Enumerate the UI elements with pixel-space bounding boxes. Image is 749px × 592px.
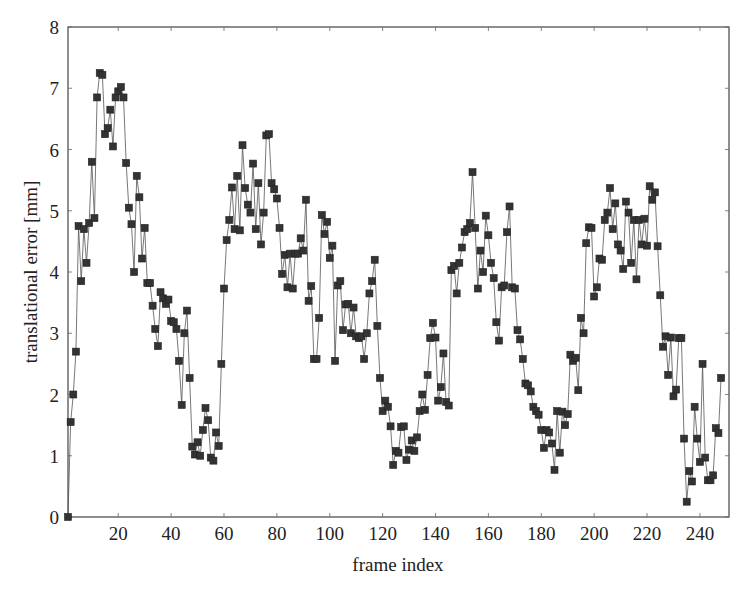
data-point-marker <box>220 285 227 292</box>
data-point-marker <box>316 314 323 321</box>
y-tick-label: 0 <box>50 507 60 528</box>
data-point-marker <box>694 435 701 442</box>
data-point-marker <box>622 198 629 205</box>
plot-frame <box>68 27 729 517</box>
data-point-marker <box>517 336 524 343</box>
y-tick-label: 7 <box>50 78 60 99</box>
data-point-marker <box>255 180 262 187</box>
data-point-marker <box>67 419 74 426</box>
data-point-marker <box>117 84 124 91</box>
data-point-marker <box>458 244 465 251</box>
y-tick-label: 3 <box>50 323 60 344</box>
y-tick-label: 4 <box>50 262 60 283</box>
data-point-marker <box>384 403 391 410</box>
data-point-marker <box>607 185 614 192</box>
data-point-marker <box>472 224 479 231</box>
data-point-marker <box>104 125 111 132</box>
data-point-marker <box>361 355 368 362</box>
data-point-marker <box>702 454 709 461</box>
data-point-marker <box>519 355 526 362</box>
data-point-marker <box>123 159 130 166</box>
data-point-marker <box>419 391 426 398</box>
data-point-marker <box>242 185 249 192</box>
data-point-marker <box>678 335 685 342</box>
x-tick-label: 20 <box>109 523 128 544</box>
data-point-marker <box>673 386 680 393</box>
data-point-marker <box>540 444 547 451</box>
data-point-marker <box>279 270 286 277</box>
data-point-marker <box>197 452 204 459</box>
data-point-marker <box>125 204 132 211</box>
data-point-marker <box>620 265 627 272</box>
data-point-marker <box>617 247 624 254</box>
data-point-marker <box>556 449 563 456</box>
data-point-marker <box>170 319 177 326</box>
data-point-marker <box>258 241 265 248</box>
data-point-marker <box>503 229 510 236</box>
data-point-marker <box>424 371 431 378</box>
data-point-marker <box>715 430 722 437</box>
data-point-marker <box>490 275 497 282</box>
data-point-marker <box>564 411 571 418</box>
data-point-marker <box>369 278 376 285</box>
data-point-marker <box>321 231 328 238</box>
data-point-marker <box>297 235 304 242</box>
data-point-marker <box>575 387 582 394</box>
data-point-marker <box>376 374 383 381</box>
data-point-marker <box>326 254 333 261</box>
data-point-marker <box>99 71 106 78</box>
data-point-marker <box>239 142 246 149</box>
data-point-marker <box>657 292 664 299</box>
data-point-marker <box>390 461 397 468</box>
data-point-marker <box>688 478 695 485</box>
data-point-marker <box>493 319 500 326</box>
data-point-marker <box>548 440 555 447</box>
data-point-marker <box>580 330 587 337</box>
data-point-marker <box>149 302 156 309</box>
data-point-marker <box>485 232 492 239</box>
data-point-marker <box>136 194 143 201</box>
data-point-marker <box>456 259 463 266</box>
data-point-marker <box>210 457 217 464</box>
data-point-marker <box>236 227 243 234</box>
data-point-marker <box>308 283 315 290</box>
data-point-marker <box>469 169 476 176</box>
data-point-marker <box>339 327 346 334</box>
data-point-marker <box>506 203 513 210</box>
data-point-marker <box>165 296 172 303</box>
data-point-marker <box>395 449 402 456</box>
data-point-marker <box>577 314 584 321</box>
x-tick-label: 40 <box>162 523 181 544</box>
data-point-marker <box>218 360 225 367</box>
y-axis-ticks: 012345678 <box>50 17 730 528</box>
data-point-marker <box>215 442 222 449</box>
data-point-marker <box>131 269 138 276</box>
data-point-marker <box>644 242 651 249</box>
data-point-marker <box>181 330 188 337</box>
data-point-marker <box>265 131 272 138</box>
data-point-marker <box>223 237 230 244</box>
data-point-marker <box>583 240 590 247</box>
data-point-marker <box>667 334 674 341</box>
data-point-marker <box>363 330 370 337</box>
data-point-marker <box>176 357 183 364</box>
data-point-marker <box>411 447 418 454</box>
x-tick-label: 240 <box>686 523 715 544</box>
data-point-marker <box>65 514 72 521</box>
chart: 012345678 204060801001201401601802002202… <box>0 0 749 592</box>
data-point-marker <box>83 259 90 266</box>
data-point-marker <box>403 457 410 464</box>
x-tick-label: 120 <box>368 523 397 544</box>
data-point-marker <box>300 247 307 254</box>
data-point-marker <box>234 172 241 179</box>
data-point-marker <box>641 215 648 222</box>
data-point-marker <box>511 285 518 292</box>
data-point-marker <box>628 259 635 266</box>
data-point-marker <box>173 325 180 332</box>
data-point-marker <box>488 259 495 266</box>
data-point-marker <box>213 429 220 436</box>
data-point-marker <box>599 256 606 263</box>
data-point-marker <box>91 215 98 222</box>
data-point-marker <box>572 354 579 361</box>
data-point-marker <box>501 282 508 289</box>
